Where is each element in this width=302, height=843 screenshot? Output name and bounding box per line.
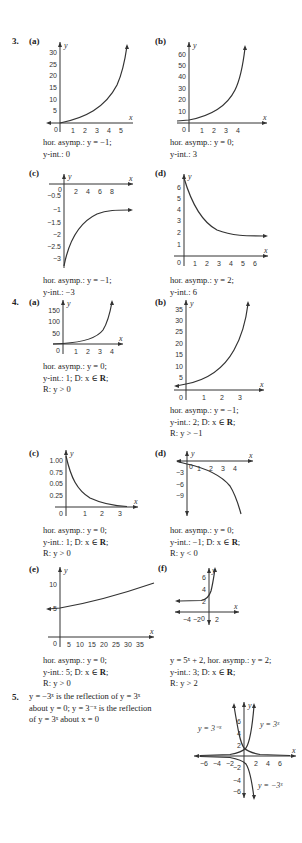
svg-text:10: 10: [178, 108, 186, 115]
svg-text:2: 2: [83, 127, 87, 134]
svg-text:100: 100: [48, 318, 60, 325]
svg-text:−2.5: −2.5: [47, 243, 61, 250]
graph-3d: x y 0 1 2 3 4 5 6 1 2 3 4 5 6: [172, 170, 272, 270]
graph-3c: x y 0 2 4 6 8 −0.5 −1 −1.5 −2 −2.5 −3: [45, 170, 135, 270]
svg-text:40: 40: [178, 73, 186, 80]
svg-text:25: 25: [175, 328, 183, 335]
svg-text:0: 0: [54, 126, 58, 133]
svg-text:4: 4: [233, 465, 237, 472]
svg-text:x: x: [291, 746, 296, 755]
svg-text:2: 2: [237, 742, 241, 749]
answer-4f: y = 5ˣ + 2, hor. asymp.: y = 2; y-int.: …: [170, 655, 271, 690]
svg-text:2: 2: [220, 394, 224, 401]
svg-text:50: 50: [52, 330, 60, 337]
svg-text:25: 25: [49, 61, 57, 68]
svg-text:35: 35: [136, 641, 144, 648]
svg-text:0: 0: [59, 510, 63, 517]
svg-text:4: 4: [236, 127, 240, 134]
svg-text:3: 3: [224, 127, 228, 134]
svg-text:3: 3: [238, 394, 242, 401]
svg-text:150: 150: [48, 307, 60, 314]
svg-text:0: 0: [53, 640, 57, 647]
question-number-5: 5.: [12, 692, 19, 702]
svg-text:x: x: [133, 497, 138, 506]
svg-text:10: 10: [49, 581, 57, 588]
svg-text:y: y: [190, 449, 195, 458]
svg-text:0.05: 0.05: [49, 480, 63, 487]
svg-text:y: y: [69, 449, 74, 458]
svg-text:10: 10: [76, 641, 84, 648]
svg-text:−2: −2: [233, 764, 241, 771]
svg-text:0.75: 0.75: [49, 469, 63, 476]
part-label-4d: (d): [155, 448, 166, 458]
svg-text:−3: −3: [53, 255, 61, 262]
svg-text:4: 4: [202, 586, 206, 593]
svg-text:35: 35: [175, 306, 183, 313]
question-number-4: 4.: [12, 297, 19, 307]
svg-text:0: 0: [182, 126, 186, 133]
graph-4f: x y 0 −4 −2 2 2 4 6: [173, 565, 243, 630]
answer-4e: hor. asymp.: y = 0; y-int.: 5; D: x ∈ R;…: [43, 655, 108, 690]
svg-text:2: 2: [74, 188, 78, 195]
svg-text:x: x: [263, 246, 268, 255]
svg-text:6: 6: [202, 574, 206, 581]
svg-text:x: x: [118, 334, 123, 343]
svg-text:4: 4: [229, 260, 233, 267]
graph-4a: x y 0 1 2 3 4 50 100 150: [45, 298, 125, 358]
svg-text:3: 3: [221, 465, 225, 472]
part-label-3d: (d): [155, 168, 166, 178]
svg-text:3: 3: [98, 348, 102, 355]
svg-text:2: 2: [212, 127, 216, 134]
svg-text:y: y: [63, 566, 68, 575]
svg-text:25: 25: [112, 641, 120, 648]
svg-text:15: 15: [175, 351, 183, 358]
label-y-3-neg-x: y = 3⁻ˣ: [197, 724, 222, 733]
svg-text:1: 1: [202, 394, 206, 401]
question-number-3: 3.: [12, 36, 19, 46]
svg-text:1: 1: [193, 260, 197, 267]
graph-4d: x y 0 1 2 3 4 −3 −6 −9: [175, 448, 255, 518]
svg-text:5: 5: [177, 195, 181, 202]
answer-4b: hor. asymp.: y = −1; y-int.: 2; D: x ∈ R…: [170, 405, 239, 440]
svg-text:2: 2: [177, 229, 181, 236]
svg-text:20: 20: [100, 641, 108, 648]
part-label-4b: (b): [155, 297, 166, 307]
svg-text:y: y: [67, 172, 72, 181]
svg-text:0: 0: [201, 615, 205, 622]
svg-text:y: y: [63, 41, 68, 50]
svg-text:15: 15: [88, 641, 96, 648]
answer-3b: hor. asymp.: y = 0;y-int.: 3: [170, 137, 234, 160]
svg-text:−4: −4: [233, 777, 241, 784]
svg-text:6: 6: [278, 760, 282, 767]
svg-text:60: 60: [178, 51, 186, 58]
svg-text:5: 5: [67, 641, 71, 648]
svg-text:4: 4: [266, 760, 270, 767]
svg-text:5: 5: [179, 374, 183, 381]
svg-text:4: 4: [110, 348, 114, 355]
svg-text:8: 8: [110, 188, 114, 195]
answer-3c: hor. asymp.: y = −1;y-int.: −3: [43, 275, 112, 298]
svg-text:30: 30: [178, 85, 186, 92]
svg-text:20: 20: [175, 340, 183, 347]
svg-text:−4: −4: [213, 760, 221, 767]
svg-text:1: 1: [197, 465, 201, 472]
svg-text:−1: −1: [53, 206, 61, 213]
svg-text:4: 4: [107, 127, 111, 134]
svg-text:2: 2: [86, 348, 90, 355]
svg-text:0: 0: [177, 259, 181, 266]
svg-text:y: y: [187, 172, 192, 181]
graph-4c: x y 0 1 2 3 1.00 0.75 0.05 0.25: [45, 448, 140, 518]
svg-text:5: 5: [119, 127, 123, 134]
svg-text:−6: −6: [200, 760, 208, 767]
svg-text:−2: −2: [193, 616, 201, 623]
svg-text:x: x: [233, 602, 238, 611]
svg-text:−4: −4: [183, 616, 191, 623]
svg-text:1: 1: [74, 348, 78, 355]
label-y-neg-3-x: y = −3ˣ: [257, 781, 283, 790]
svg-text:−2: −2: [53, 231, 61, 238]
svg-text:5: 5: [53, 107, 57, 114]
svg-text:2: 2: [100, 510, 104, 517]
svg-text:2: 2: [215, 616, 219, 623]
svg-text:0: 0: [179, 394, 183, 401]
answer-4d: hor. asymp.: y = 0; y-int.: −1; D: x ∈ R…: [170, 525, 240, 560]
